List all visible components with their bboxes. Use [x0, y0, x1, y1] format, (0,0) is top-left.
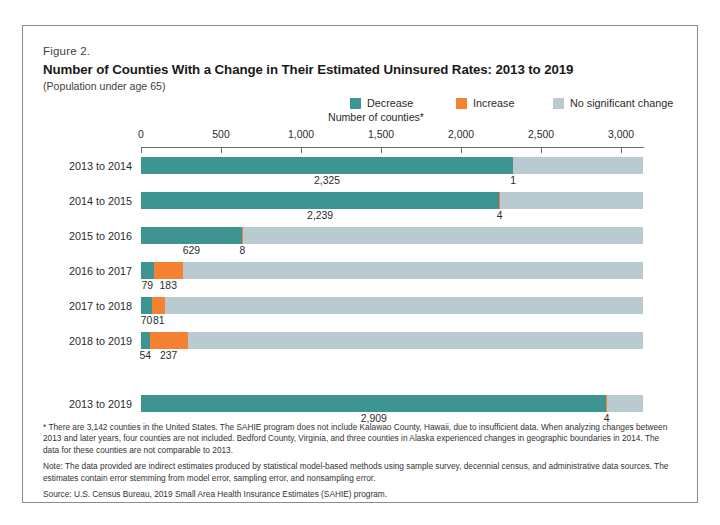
bar-segment-no-significant-change — [243, 227, 643, 244]
x-tick-1500 — [381, 147, 382, 153]
value-label: 629 — [183, 245, 200, 256]
bar-row — [141, 192, 644, 209]
value-label: 4 — [497, 210, 503, 221]
bar-segment-no-significant-change — [188, 332, 644, 349]
bar-row — [141, 227, 644, 244]
bar-segment-decrease — [141, 297, 152, 314]
bar-segment-decrease — [141, 227, 242, 244]
value-label: 2,239 — [307, 210, 333, 221]
category-label-2013-to-2014: 2013 to 2014 — [32, 160, 132, 172]
bar-segment-no-significant-change — [183, 262, 643, 279]
x-tick-500 — [221, 147, 222, 153]
value-label: 2,325 — [314, 175, 340, 186]
x-tick-2500 — [541, 147, 542, 153]
bar-segment-decrease — [141, 395, 606, 412]
bar-row — [141, 332, 644, 349]
x-tick-label-0: 0 — [138, 129, 144, 140]
bar-segment-increase — [152, 297, 165, 314]
bar-segment-decrease — [141, 332, 150, 349]
x-tick-2000 — [461, 147, 462, 153]
category-label-2015-to-2016: 2015 to 2016 — [32, 230, 132, 242]
figure-container: Figure 2. Number of Counties With a Chan… — [22, 25, 698, 503]
note-source: Source: U.S. Census Bureau, 2019 Small A… — [43, 489, 675, 500]
value-label: 81 — [153, 315, 165, 326]
bar-segment-decrease — [141, 192, 499, 209]
note-footnote: * There are 3,142 counties in the United… — [43, 422, 675, 456]
bar-row — [141, 395, 644, 412]
bar-row — [141, 262, 644, 279]
x-tick-label-1000: 1,000 — [288, 129, 314, 140]
x-tick-label-1500: 1,500 — [368, 129, 394, 140]
x-tick-3000 — [621, 147, 622, 153]
x-axis-title: Number of counties* — [328, 111, 424, 123]
note-methodology: Note: The data provided are indirect est… — [43, 461, 675, 484]
bar-segment-increase — [154, 262, 183, 279]
value-label: 1 — [510, 175, 516, 186]
value-label: 54 — [140, 350, 152, 361]
category-label-2013-to-2019: 2013 to 2019 — [32, 398, 132, 410]
x-tick-0 — [141, 147, 142, 153]
bar-row — [141, 157, 644, 174]
x-tick-label-2000: 2,000 — [448, 129, 474, 140]
bar-segment-no-significant-change — [165, 297, 643, 314]
x-tick-1000 — [301, 147, 302, 153]
x-tick-label-3000: 3,000 — [608, 129, 634, 140]
value-label: 183 — [160, 280, 177, 291]
bar-segment-no-significant-change — [513, 157, 643, 174]
x-tick-label-2500: 2,500 — [528, 129, 554, 140]
x-tick-label-500: 500 — [212, 129, 229, 140]
figure-notes: * There are 3,142 counties in the United… — [43, 422, 675, 500]
x-axis-line — [141, 147, 644, 148]
category-label-2018-to-2019: 2018 to 2019 — [32, 335, 132, 347]
value-label: 8 — [239, 245, 245, 256]
category-label-2017-to-2018: 2017 to 2018 — [32, 300, 132, 312]
category-label-2016-to-2017: 2016 to 2017 — [32, 265, 132, 277]
value-label: 237 — [160, 350, 177, 361]
category-label-2014-to-2015: 2014 to 2015 — [32, 195, 132, 207]
bar-segment-no-significant-change — [500, 192, 643, 209]
value-label: 70 — [141, 315, 153, 326]
bar-row — [141, 297, 644, 314]
bar-segment-no-significant-change — [607, 395, 643, 412]
bar-segment-decrease — [141, 262, 154, 279]
bar-segment-decrease — [141, 157, 513, 174]
value-label: 79 — [142, 280, 154, 291]
bar-segment-increase — [150, 332, 188, 349]
